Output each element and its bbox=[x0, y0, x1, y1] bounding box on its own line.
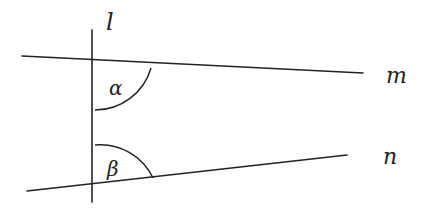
label-n: n bbox=[383, 144, 397, 169]
line-n bbox=[27, 155, 347, 191]
label-l: l bbox=[106, 8, 114, 36]
label-alpha: α bbox=[109, 76, 123, 100]
angle-alpha-arc bbox=[95, 68, 151, 110]
line-m bbox=[22, 56, 363, 73]
label-m: m bbox=[386, 63, 407, 88]
transversal-diagram: l m n α β bbox=[0, 0, 428, 211]
angle-beta-arc bbox=[95, 145, 153, 178]
label-beta: β bbox=[106, 157, 119, 181]
